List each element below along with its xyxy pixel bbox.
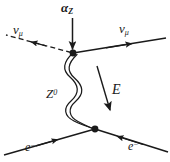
feynman-diagram: αZ νμ νμ Z0 E e− e− [0,0,170,162]
incoming-electron-line [4,129,95,155]
diagram-canvas [0,0,170,162]
z-boson-label: Z0 [46,87,57,100]
outgoing-neutrino-line [73,38,166,53]
upper-vertex [70,50,77,57]
outgoing-neutrino-label: νμ [119,22,129,37]
outgoing-electron-label: e− [128,140,138,152]
coupling-label: αZ [61,1,73,16]
incoming-electron-label: e− [25,141,35,153]
incoming-neutrino-label: νμ [13,23,23,38]
lower-vertex [92,126,99,133]
energy-arrow [97,66,110,110]
energy-label: E [112,83,121,97]
z-boson-propagator [65,53,97,131]
